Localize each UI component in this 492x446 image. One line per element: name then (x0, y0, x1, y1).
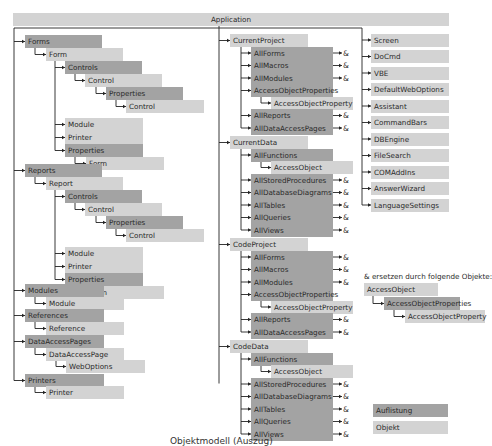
node-references: References (25, 309, 104, 322)
node-reports: Reports (25, 164, 102, 177)
node-replacement-accessobjectproperty: AccessObjectProperty (405, 310, 485, 323)
node-allmodules: AllModules (251, 72, 333, 85)
node-weboptions: WebOptions (66, 360, 145, 373)
amp-placeholder: & (343, 328, 349, 338)
node-module: Module (65, 118, 143, 131)
node-alldataaccesspages: AllDataAccessPages (251, 326, 333, 339)
node-alldatabasediagrams: AllDatabaseDiagrams (251, 390, 333, 403)
node-control: Control (85, 203, 162, 216)
node-assistant: Assistant (371, 100, 449, 113)
amp-placeholder: & (343, 417, 349, 427)
arrow-icon (339, 268, 342, 272)
amp-placeholder: & (343, 315, 349, 325)
node-accessobject: AccessObject (271, 365, 353, 378)
arrow-icon (339, 51, 342, 55)
node-comaddins: COMAddIns (371, 166, 449, 179)
amp-placeholder: & (343, 278, 349, 288)
node-printer: Printer (65, 131, 143, 144)
node-printer: Printer (65, 260, 143, 273)
node-vbe: VBE (371, 67, 449, 80)
node-alldataaccesspages: AllDataAccessPages (251, 122, 333, 135)
node-properties: Properties (106, 87, 183, 100)
amp-placeholder: & (343, 61, 349, 71)
arrow-icon (339, 395, 342, 399)
node-currentproject: CurrentProject (230, 34, 308, 47)
node-allmacros: AllMacros (251, 59, 333, 72)
node-allqueries: AllQueries (251, 415, 333, 428)
arrow-icon (339, 432, 342, 436)
arrow-icon (339, 178, 342, 182)
node-dbengine: DBEngine (371, 133, 449, 146)
node-dataaccesspages: DataAccessPages (25, 335, 104, 348)
node-form: Form (46, 48, 123, 61)
replacement-note: & ersetzen durch folgende Objekte: (364, 272, 492, 281)
node-allreports: AllReports (251, 313, 333, 326)
node-alltables: AllTables (251, 403, 333, 416)
amp-placeholder: & (343, 188, 349, 198)
arrow-icon (339, 255, 342, 259)
arrow-icon (339, 382, 342, 386)
node-codeproject: CodeProject (230, 238, 308, 251)
node-control: Control (126, 100, 204, 113)
node-allmodules: AllModules (251, 276, 333, 289)
node-report: Report (46, 177, 123, 190)
figure-caption: Objektmodell (Auszug) (170, 436, 273, 446)
node-module: Module (65, 247, 143, 260)
arrow-icon (339, 126, 342, 130)
arrow-icon (339, 420, 342, 424)
node-allviews: AllViews (251, 224, 333, 237)
node-allreports: AllReports (251, 109, 333, 122)
node-allmacros: AllMacros (251, 263, 333, 276)
node-replacement-accessobjectproperties: AccessObjectProperties (384, 297, 460, 310)
arrow-icon (339, 216, 342, 220)
node-allfunctions: AllFunctions (251, 149, 333, 162)
node-application: Application (13, 13, 449, 26)
amp-placeholder: & (343, 213, 349, 223)
amp-placeholder: & (343, 430, 349, 440)
node-replacement-accessobject: AccessObject (364, 283, 438, 296)
node-currentdata: CurrentData (230, 136, 308, 149)
node-forms: Forms (25, 35, 102, 48)
node-reference: Reference (46, 322, 124, 335)
node-docmd: DoCmd (371, 50, 449, 63)
node-accessobjectproperties: AccessObjectProperties (251, 84, 333, 97)
amp-placeholder: & (343, 111, 349, 121)
legend-collection: Auflistung (373, 404, 448, 417)
amp-placeholder: & (343, 226, 349, 236)
node-printer: Printer (46, 386, 124, 399)
node-screen: Screen (371, 34, 449, 47)
node-allforms: AllForms (251, 47, 333, 60)
arrow-icon (339, 228, 342, 232)
node-accessobjectproperty: AccessObjectProperty (271, 301, 353, 314)
node-allstoredprocedures: AllStoredProcedures (251, 174, 333, 187)
node-controls: Controls (65, 61, 142, 74)
node-filesearch: FileSearch (371, 149, 449, 162)
amp-placeholder: & (343, 405, 349, 415)
node-allforms: AllForms (251, 251, 333, 264)
node-properties: Properties (106, 216, 183, 229)
node-languagesettings: LanguageSettings (371, 199, 449, 212)
node-accessobjectproperty: AccessObjectProperty (271, 97, 353, 110)
node-accessobject: AccessObject (271, 161, 353, 174)
legend-object: Objekt (373, 421, 448, 434)
arrow-icon (339, 407, 342, 411)
arrow-icon (339, 114, 342, 118)
node-properties: Properties (65, 144, 143, 157)
node-control: Control (126, 229, 204, 242)
node-codedata: CodeData (230, 340, 308, 353)
node-defaultweboptions: DefaultWebOptions (371, 83, 449, 96)
arrow-icon (339, 64, 342, 68)
amp-placeholder: & (343, 124, 349, 134)
amp-placeholder: & (343, 380, 349, 390)
arrow-icon (339, 76, 342, 80)
amp-placeholder: & (343, 176, 349, 186)
amp-placeholder: & (343, 392, 349, 402)
node-allstoredprocedures: AllStoredProcedures (251, 378, 333, 391)
amp-placeholder: & (343, 74, 349, 84)
node-alltables: AllTables (251, 199, 333, 212)
amp-placeholder: & (343, 253, 349, 263)
node-controls: Controls (65, 190, 142, 203)
arrow-icon (339, 191, 342, 195)
node-modules: Modules (25, 284, 104, 297)
arrow-icon (339, 280, 342, 284)
